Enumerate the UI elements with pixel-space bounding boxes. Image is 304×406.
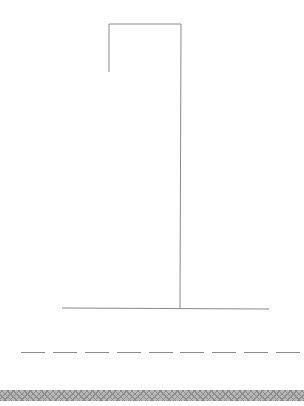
letter-dash (21, 352, 45, 353)
word-slots (0, 346, 304, 360)
letter-slot (244, 346, 268, 360)
letter-slot (149, 346, 173, 360)
letter-dash (117, 352, 141, 353)
gallows (0, 0, 304, 320)
letter-slot (180, 346, 204, 360)
letter-strip[interactable] (0, 390, 304, 401)
letter-dash (212, 352, 236, 353)
letter-slot (212, 346, 236, 360)
letter-slot (117, 346, 141, 360)
gallows-base (62, 308, 269, 309)
letter-dash (149, 352, 173, 353)
letter-dash (85, 352, 109, 353)
letter-slot (276, 346, 300, 360)
letter-slot (53, 346, 77, 360)
gallows-pole (180, 24, 181, 308)
letter-dash (53, 352, 77, 353)
letter-dash (244, 352, 268, 353)
letter-slot (85, 346, 109, 360)
letter-dash (180, 352, 204, 353)
letter-slot (21, 346, 45, 360)
letter-dash (276, 352, 300, 353)
